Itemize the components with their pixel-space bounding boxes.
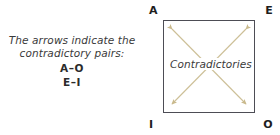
- logic-square-diagram: Contradictories A E I O: [146, 2, 276, 133]
- contradictories-label: Contradictories: [146, 58, 276, 70]
- corner-label-e: E: [265, 5, 273, 16]
- corner-label-a: A: [149, 5, 158, 16]
- contradictory-pair-e-i: E–I: [4, 76, 140, 90]
- corner-label-i: I: [149, 119, 153, 130]
- contradictory-pair-a-o: A–O: [4, 62, 140, 76]
- caption-line-1: The arrows indicate the: [4, 34, 140, 47]
- corner-label-o: O: [263, 119, 273, 130]
- caption-line-2: contradictory pairs:: [4, 47, 140, 60]
- caption-block: The arrows indicate the contradictory pa…: [4, 34, 140, 89]
- contradictories-label-text: Contradictories: [169, 58, 253, 70]
- square-of-opposition-figure: The arrows indicate the contradictory pa…: [0, 0, 280, 135]
